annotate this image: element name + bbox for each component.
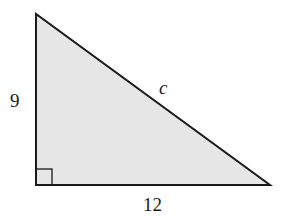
horizontal-leg-label: 12 (143, 194, 162, 215)
hypotenuse-label: c (159, 77, 168, 98)
vertical-leg-label: 9 (10, 90, 20, 111)
triangle-shape (36, 14, 270, 185)
triangle-diagram: 9 12 c (0, 0, 283, 220)
